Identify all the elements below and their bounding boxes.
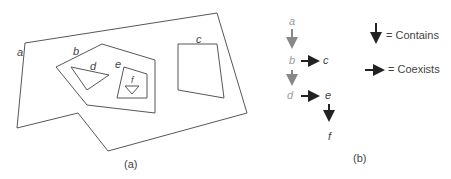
label-a: a bbox=[17, 47, 23, 58]
node-c: c bbox=[323, 55, 329, 66]
label-c: c bbox=[196, 34, 202, 45]
label-b: b bbox=[73, 46, 79, 57]
region-b bbox=[56, 44, 155, 113]
caption-b: (b) bbox=[353, 153, 366, 164]
label-d: d bbox=[90, 61, 96, 72]
node-f: f bbox=[328, 131, 331, 142]
node-d: d bbox=[287, 90, 293, 101]
node-e: e bbox=[325, 90, 331, 101]
region-c bbox=[178, 44, 224, 98]
legend-contains-label: = Contains bbox=[386, 30, 439, 41]
region-f bbox=[125, 86, 139, 94]
caption-a: (a) bbox=[124, 159, 137, 170]
diagram-canvas bbox=[0, 0, 451, 179]
node-a: a bbox=[289, 16, 295, 27]
legend-coexists-label: = Coexists bbox=[388, 64, 440, 75]
node-b: b bbox=[289, 55, 295, 66]
label-f: f bbox=[131, 76, 134, 85]
label-e: e bbox=[115, 59, 121, 70]
